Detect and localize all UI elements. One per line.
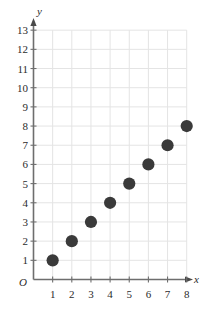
data-point	[142, 158, 154, 170]
y-tick-label: 4	[4, 197, 28, 208]
x-tick-label: 3	[88, 289, 94, 300]
data-point	[66, 235, 78, 247]
y-tick-label: 3	[4, 216, 28, 227]
x-tick-label: 6	[146, 289, 152, 300]
y-axis-label: y	[37, 6, 42, 17]
x-axis-label: x	[194, 274, 199, 285]
data-points	[47, 120, 193, 266]
data-point	[85, 216, 97, 228]
y-tick-label: 11	[4, 63, 28, 74]
x-tick-label: 4	[107, 289, 113, 300]
x-tick-label: 7	[165, 289, 171, 300]
y-tick-label: 5	[4, 178, 28, 189]
y-tick-label: 1	[4, 255, 28, 266]
grid-lines	[36, 30, 187, 279]
tick-marks	[31, 30, 187, 282]
y-tick-label: 7	[4, 140, 28, 151]
x-tick-label: 1	[50, 289, 56, 300]
plot-canvas	[0, 0, 201, 309]
x-tick-label: 8	[184, 289, 190, 300]
origin-label: O	[19, 277, 27, 288]
y-tick-label: 8	[4, 121, 28, 132]
y-tick-label: 9	[4, 101, 28, 112]
data-point	[181, 120, 193, 132]
x-tick-label: 5	[127, 289, 133, 300]
y-tick-label: 13	[4, 25, 28, 36]
data-point	[104, 197, 116, 209]
y-tick-label: 10	[4, 82, 28, 93]
y-axis-arrow	[30, 18, 36, 26]
data-point	[161, 139, 173, 151]
data-point	[47, 254, 59, 266]
x-tick-label: 2	[69, 289, 75, 300]
y-tick-label: 2	[4, 236, 28, 247]
data-point	[123, 178, 135, 190]
y-tick-label: 12	[4, 44, 28, 55]
scatter-plot-figure: 12345678910111213 12345678 y x O	[0, 0, 201, 309]
y-tick-label: 6	[4, 159, 28, 170]
